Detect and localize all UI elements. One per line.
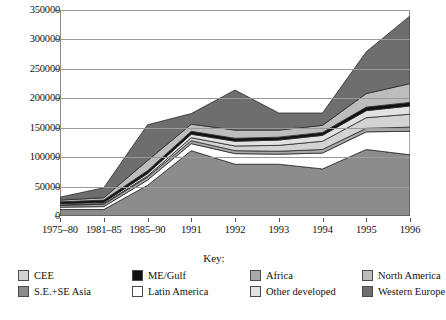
area-series-group <box>60 10 410 216</box>
y-axis-tick-label: 300000 <box>4 34 60 44</box>
legend-swatch <box>18 286 29 297</box>
x-axis-tick-label: 1996 <box>400 224 421 236</box>
y-axis-tick-label: 50000 <box>4 182 60 192</box>
y-axis-tick-label: 250000 <box>4 64 60 74</box>
x-axis-tick-label: 1994 <box>312 224 333 236</box>
x-axis-tick-mark <box>366 218 367 222</box>
legend-swatch <box>132 286 143 297</box>
legend-swatch <box>362 270 373 281</box>
x-axis-tick-label: 1981–85 <box>86 224 122 236</box>
legend-item-label: Other developed <box>266 285 336 298</box>
legend-item-label: ME/Gulf <box>148 269 186 282</box>
legend-swatch <box>362 286 373 297</box>
y-axis-tick-label: 100000 <box>4 152 60 162</box>
legend-items: CEEME/GulfAfricaNorth AmericaS.E.+SE Asi… <box>0 269 428 298</box>
x-axis-tick-mark <box>104 218 105 222</box>
x-axis-tick-mark <box>279 218 280 222</box>
x-axis-tick-mark <box>148 218 149 222</box>
x-axis-tick-mark <box>60 218 61 222</box>
legend-item: Latin America <box>132 285 250 298</box>
legend-item: ME/Gulf <box>132 269 250 282</box>
y-axis-tick-label: 0 <box>4 211 60 221</box>
y-axis-tick-label: 200000 <box>4 93 60 103</box>
plot-area <box>60 10 410 216</box>
legend-title: Key: <box>0 252 428 265</box>
legend-swatch <box>250 270 261 281</box>
x-axis-tick-mark <box>410 218 411 222</box>
y-axis-tick-label: 350000 <box>4 5 60 15</box>
legend-item: Africa <box>250 269 362 282</box>
chart-legend: Key: CEEME/GulfAfricaNorth AmericaS.E.+S… <box>0 252 428 314</box>
legend-item-label: Africa <box>266 269 293 282</box>
legend-item: Western Europe <box>362 285 446 298</box>
x-axis-tick-label: 1993 <box>268 224 289 236</box>
x-axis-tick-label: 1985–90 <box>129 224 165 236</box>
gridline <box>60 187 410 188</box>
legend-item-label: Western Europe <box>378 285 445 298</box>
legend-swatch <box>18 270 29 281</box>
x-axis-tick-label: 1995 <box>356 224 377 236</box>
y-axis: 0500001000001500002000002500003000003500… <box>0 10 60 216</box>
gridline <box>60 10 410 11</box>
y-axis-tick-mark <box>55 216 60 217</box>
legend-item-label: North America <box>378 269 441 282</box>
legend-item: S.E.+SE Asia <box>18 285 132 298</box>
legend-swatch <box>250 286 261 297</box>
legend-swatch <box>132 270 143 281</box>
legend-item-label: Latin America <box>148 285 208 298</box>
x-axis-tick-mark <box>191 218 192 222</box>
x-axis: 1975–801981–851985–901991199219931994199… <box>60 218 410 240</box>
x-axis-tick-label: 1975–80 <box>42 224 78 236</box>
legend-item: CEE <box>18 269 132 282</box>
gridline <box>60 157 410 158</box>
x-axis-tick-label: 1991 <box>181 224 202 236</box>
gridline <box>60 98 410 99</box>
gridline <box>60 128 410 129</box>
legend-item: North America <box>362 269 446 282</box>
x-axis-tick-mark <box>323 218 324 222</box>
legend-item: Other developed <box>250 285 362 298</box>
y-axis-tick-label: 150000 <box>4 123 60 133</box>
legend-item-label: CEE <box>34 269 54 282</box>
gridline <box>60 39 410 40</box>
gridline <box>60 69 410 70</box>
x-axis-tick-mark <box>235 218 236 222</box>
x-axis-tick-label: 1992 <box>225 224 246 236</box>
legend-item-label: S.E.+SE Asia <box>34 285 91 298</box>
